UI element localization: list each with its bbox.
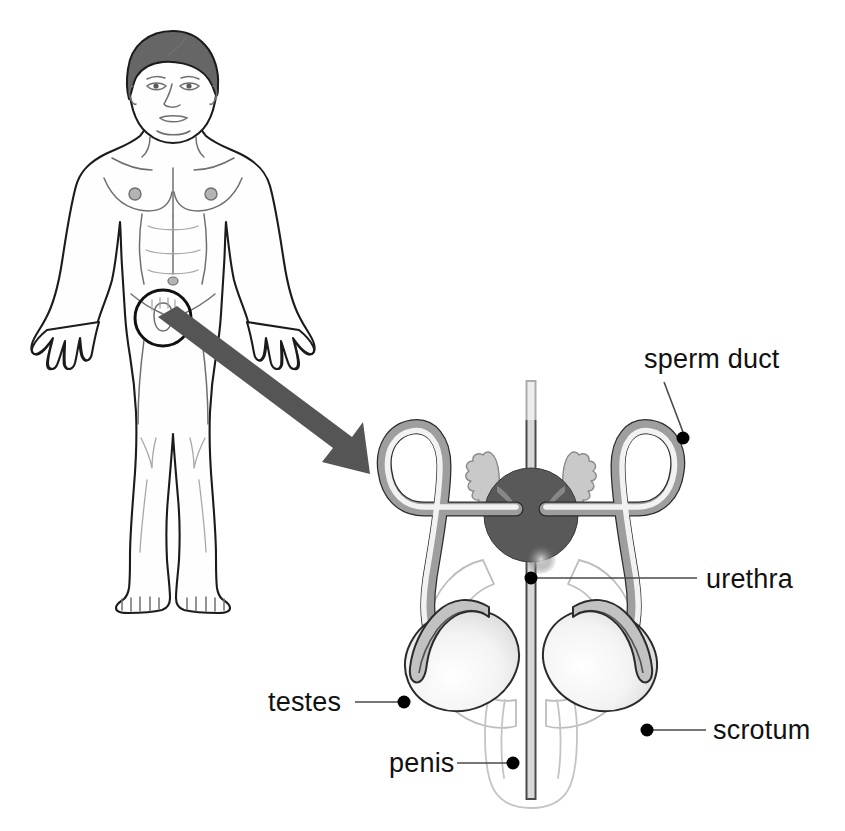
urethra-label: urethra [706, 564, 794, 594]
testes-marker[interactable] [398, 696, 411, 709]
right-pupil [186, 83, 191, 88]
penis-label: penis [389, 748, 455, 778]
male-reproductive-system-diagram: sperm duct urethra testes scrotum pe [0, 0, 845, 831]
left-nipple [129, 188, 141, 200]
scrotum-marker[interactable] [641, 724, 654, 737]
sperm-duct-marker[interactable] [677, 432, 690, 445]
left-pupil [153, 83, 158, 88]
scrotum-label: scrotum [713, 715, 810, 745]
navel [168, 277, 178, 285]
right-nipple [205, 188, 217, 200]
prostate-highlight [512, 522, 564, 574]
urethra-marker[interactable] [525, 572, 538, 585]
canvas-background [0, 0, 845, 831]
penis-marker[interactable] [507, 757, 520, 770]
testes-label: testes [268, 687, 341, 717]
sperm-duct-label: sperm duct [644, 344, 780, 374]
diagram-figure: sperm duct urethra testes scrotum pe [0, 0, 845, 831]
